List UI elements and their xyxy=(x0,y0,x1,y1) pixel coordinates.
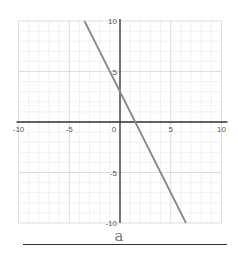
svg-text:-10: -10 xyxy=(13,125,25,134)
svg-text:0: 0 xyxy=(112,125,117,134)
svg-text:-5: -5 xyxy=(110,169,118,178)
answer-line xyxy=(23,244,227,245)
coordinate-plane: -10-50510105-5-10 xyxy=(0,0,238,230)
graph-caption: a xyxy=(0,228,238,244)
svg-text:10: 10 xyxy=(108,17,117,26)
svg-text:5: 5 xyxy=(169,125,174,134)
svg-text:5: 5 xyxy=(113,68,118,77)
svg-text:-5: -5 xyxy=(66,125,74,134)
svg-text:10: 10 xyxy=(217,125,226,134)
